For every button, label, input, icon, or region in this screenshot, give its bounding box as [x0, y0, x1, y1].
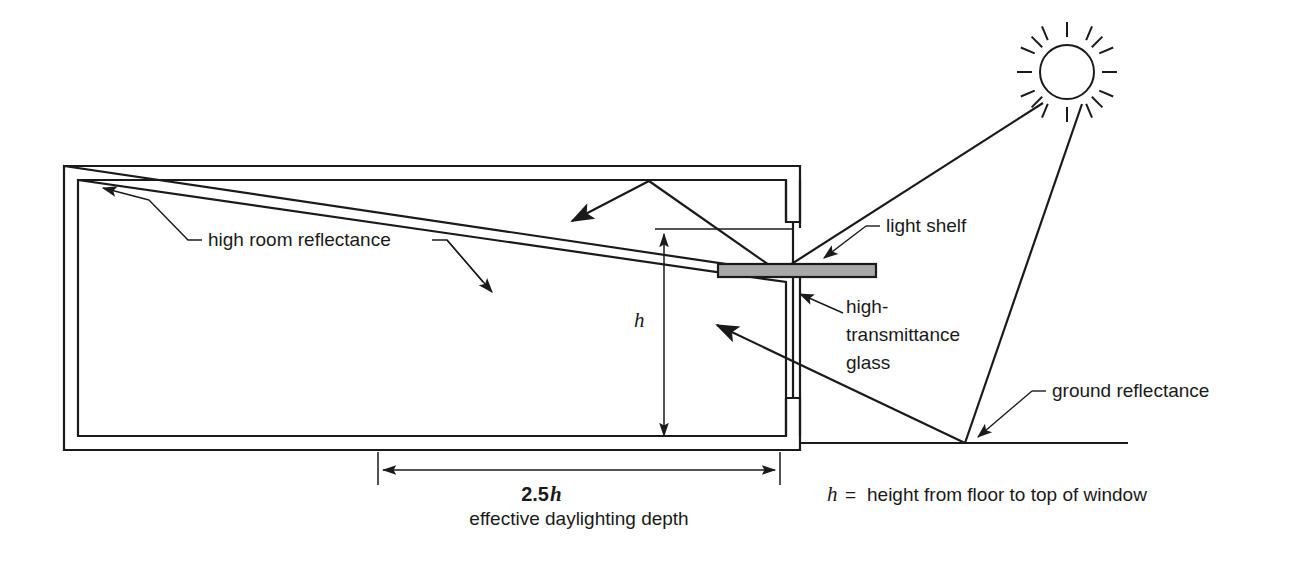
glass-text-line-1: high-	[846, 296, 888, 317]
room-inner-wall	[78, 180, 786, 436]
label-high-transmittance-glass: high- transmittance glass	[800, 294, 960, 373]
window-head-jamb	[786, 180, 800, 222]
dimension-h-label: h	[634, 308, 645, 332]
daylighting-section-drawing: high room reflectance light shelf high- …	[0, 0, 1302, 564]
glass-text-line-3: glass	[846, 352, 890, 373]
label-high-room-reflectance: high room reflectance	[149, 200, 492, 292]
dimension-h-vertical: h	[634, 229, 793, 436]
dimension-depth-horizontal: 2.5 h effective daylighting depth	[378, 452, 780, 529]
ground-reflectance-text: ground reflectance	[1052, 380, 1209, 401]
high-room-reflectance-text: high room reflectance	[208, 229, 391, 250]
label-ground-reflectance: ground reflectance	[978, 380, 1209, 437]
light-shelf-icon	[718, 264, 876, 277]
legend-h-definition: h = height from floor to top of window	[827, 482, 1147, 506]
sun-icon	[1017, 22, 1117, 122]
light-shelf-text: light shelf	[886, 215, 967, 236]
legend-h-symbol: h	[827, 482, 838, 506]
legend-h-definition-text: height from floor to top of window	[867, 484, 1147, 505]
glass-text-line-2: transmittance	[846, 324, 960, 345]
sun-ray-to-light-shelf	[779, 103, 1043, 272]
reflected-ray-shelf-to-ceiling	[649, 181, 779, 272]
window-sill-jamb	[786, 398, 800, 436]
depth-caption-label: effective daylighting depth	[469, 508, 688, 529]
depth-value-label: 2.5	[521, 483, 549, 505]
label-light-shelf: light shelf	[824, 215, 967, 258]
daylighting-diagram: high room reflectance light shelf high- …	[0, 0, 1302, 564]
reflected-ray-ceiling-into-room	[572, 181, 649, 221]
legend-equals-sign: =	[845, 484, 856, 505]
depth-symbol-label: h	[550, 482, 562, 506]
